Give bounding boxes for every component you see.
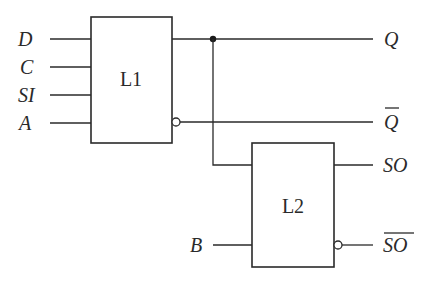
circuit-diagram: L1 L2 D C SI A B Q Q SO SO [0, 0, 429, 281]
label-b: B [190, 234, 202, 256]
inverter-bubble-l2 [334, 241, 342, 249]
label-si: SI [18, 84, 36, 106]
inverter-bubble-l1 [172, 118, 180, 126]
wire-l1-to-l2 [213, 39, 252, 165]
block-l2-label: L2 [282, 195, 304, 217]
label-a: A [17, 112, 32, 134]
block-l1-label: L1 [120, 68, 142, 90]
label-q: Q [384, 28, 399, 50]
label-d: D [17, 28, 33, 50]
label-c: C [20, 56, 34, 78]
label-q-bar: Q [384, 111, 399, 133]
label-so-bar: SO [383, 234, 407, 256]
label-so: SO [383, 154, 407, 176]
